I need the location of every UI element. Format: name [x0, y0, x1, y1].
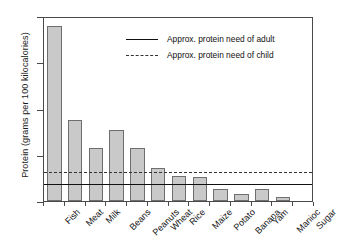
x-tick-mark: [85, 202, 86, 206]
y-axis-title: Protein (grams per 100 kilocalories): [20, 5, 30, 205]
bar: [255, 189, 270, 201]
legend-label-child: Approx. protein need of child: [167, 50, 274, 60]
x-tick-mark: [292, 202, 293, 206]
x-tick-mark: [126, 202, 127, 206]
bar: [276, 197, 291, 201]
bar: [130, 148, 145, 201]
bar: [172, 176, 187, 201]
bar: [193, 177, 208, 201]
bar: [89, 148, 104, 201]
x-tick-mark: [271, 202, 272, 206]
x-tick-mark: [209, 202, 210, 206]
reference-line-child: [44, 172, 312, 173]
bar: [109, 130, 124, 201]
reference-line-adult: [44, 184, 312, 185]
x-tick-mark: [105, 202, 106, 206]
x-tick-mark: [168, 202, 169, 206]
legend-label-adult: Approx. protein need of adult: [167, 34, 275, 44]
x-tick-mark: [188, 202, 189, 206]
x-tick-mark: [251, 202, 252, 206]
legend-item-adult: Approx. protein need of adult: [126, 31, 275, 47]
x-tick-mark: [64, 202, 65, 206]
bar: [68, 120, 83, 201]
x-axis-label-meat: Meat: [84, 207, 105, 228]
bar: [213, 189, 228, 201]
x-axis-label-fish: Fish: [63, 207, 82, 226]
x-tick-mark: [43, 202, 44, 206]
x-tick-mark: [147, 202, 148, 206]
legend-swatch-dashed-line-icon: [126, 55, 158, 56]
legend: Approx. protein need of adult Approx. pr…: [126, 31, 275, 63]
x-tick-mark: [230, 202, 231, 206]
bar: [234, 194, 249, 201]
x-axis-label-milk: Milk: [104, 207, 122, 225]
x-axis-label-maize: Maize: [210, 207, 234, 231]
bar: [47, 26, 62, 201]
legend-item-child: Approx. protein need of child: [126, 47, 275, 63]
x-axis-label-beans: Beans: [127, 207, 152, 232]
x-tick-mark: [313, 202, 314, 206]
legend-swatch-solid-line-icon: [126, 39, 158, 40]
